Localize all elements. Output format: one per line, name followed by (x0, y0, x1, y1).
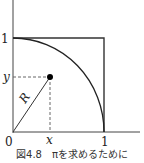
point (47, 74, 53, 80)
quarter-circle-arc (13, 38, 104, 132)
radius-line (13, 77, 50, 132)
figure-caption: 図4.8 πを求めるために (0, 146, 144, 161)
y-tick-one-label: 1 (1, 33, 9, 45)
quarter-circle-diagram (0, 0, 144, 163)
unit-square (13, 38, 104, 132)
x-point-label: x (46, 134, 53, 146)
y-point-label: y (3, 71, 10, 83)
